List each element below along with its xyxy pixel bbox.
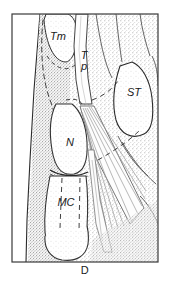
anatomical-figure-panel-d: Tm T p ST N MC D [0, 0, 170, 294]
label-mc: MC [57, 196, 74, 208]
anatomy-illustration: Tm T p ST N MC [0, 0, 170, 294]
label-n: N [66, 136, 74, 148]
label-st: ST [127, 86, 142, 98]
label-tp-p: p [80, 60, 87, 72]
panel-label-d: D [0, 264, 170, 276]
label-tm: Tm [50, 30, 66, 42]
